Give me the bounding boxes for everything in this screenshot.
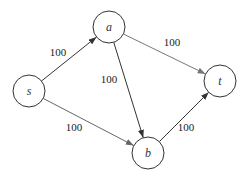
edge-labels-layer: 100100100100100 [50, 36, 195, 133]
edge-s-a [41, 37, 96, 81]
node-a: a [93, 11, 125, 43]
edge-capacity-label: 100 [164, 36, 181, 48]
node-t: t [204, 65, 236, 97]
node-label: b [145, 146, 151, 160]
edge-capacity-label: 100 [101, 73, 118, 85]
flow-network-diagram: 100100100100100 sabt [0, 0, 249, 180]
edge-capacity-label: 100 [178, 121, 195, 133]
edge-a-b [114, 42, 144, 137]
edge-capacity-label: 100 [66, 121, 83, 133]
node-s: s [13, 75, 45, 107]
edge-capacity-label: 100 [50, 46, 67, 58]
edge-b-t [159, 92, 208, 141]
node-label: a [106, 20, 112, 34]
edge-s-b [43, 98, 134, 145]
node-b: b [132, 137, 164, 169]
node-label: s [27, 84, 32, 98]
